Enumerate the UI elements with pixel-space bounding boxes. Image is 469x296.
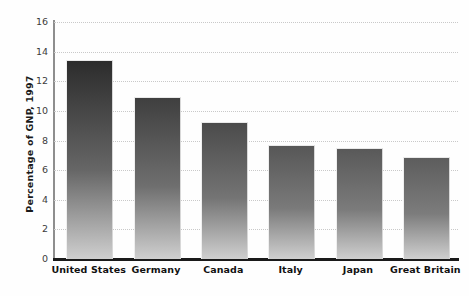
gridline: [54, 22, 458, 24]
bar-united-states: [66, 60, 113, 259]
y-axis-tick-label: 14: [26, 47, 48, 57]
y-axis-tick-label: 0: [26, 254, 48, 264]
bar-canada: [201, 122, 248, 259]
y-axis-tick-label: 16: [26, 17, 48, 27]
y-axis-tick-label: 10: [26, 106, 48, 116]
gridline: [54, 170, 458, 172]
x-axis-category-label: Great Britain: [377, 264, 469, 276]
gridline: [54, 81, 458, 83]
y-axis-tick-label: 6: [26, 165, 48, 175]
gridline: [54, 111, 458, 113]
plot-area: [54, 22, 458, 259]
gridline: [54, 141, 458, 143]
bar-japan: [336, 148, 383, 259]
y-axis-tick-label: 2: [26, 224, 48, 234]
gridline: [54, 229, 458, 231]
bar-chart-figure: Percentage of GNP, 1997 0246810121416 Un…: [0, 0, 469, 296]
bar-italy: [268, 145, 315, 259]
bar-germany: [134, 97, 181, 259]
gridline: [54, 52, 458, 54]
bar-great-britain: [403, 157, 450, 259]
y-axis-tick-label: 4: [26, 195, 48, 205]
y-axis-tick-label: 12: [26, 76, 48, 86]
y-axis-tick-label: 8: [26, 136, 48, 146]
gridline: [54, 200, 458, 202]
